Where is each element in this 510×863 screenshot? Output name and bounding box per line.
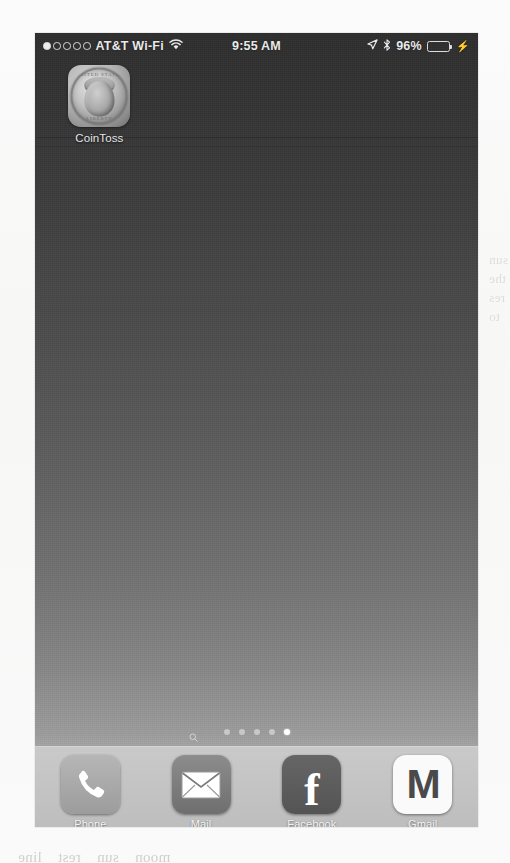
gmail-m-icon[interactable]: M <box>393 755 452 814</box>
signal-strength-dots <box>43 42 91 50</box>
dock-label-facebook: Facebook <box>287 818 336 827</box>
page-dot-2[interactable] <box>239 729 245 735</box>
page-indicator <box>35 725 478 739</box>
wifi-icon <box>169 39 183 53</box>
phone-handset-icon[interactable] <box>61 755 120 814</box>
status-bar-left: AT&T Wi-Fi <box>43 39 367 53</box>
facebook-f-glyph: f <box>304 767 319 813</box>
battery-icon <box>427 41 450 52</box>
phone-screenshot: AT&T Wi-Fi 9:55 AM 96% <box>35 33 478 827</box>
dock-label-gmail: Gmail <box>408 818 437 827</box>
dock-item-facebook[interactable]: f Facebook <box>282 755 341 827</box>
envelope-icon[interactable] <box>172 755 231 814</box>
page-dot-3[interactable] <box>254 729 260 735</box>
bluetooth-icon <box>383 39 391 54</box>
app-cointoss[interactable]: UNITED STATES LIBERTY CoinToss <box>47 65 152 144</box>
wallpaper <box>35 33 478 827</box>
lightning-bolt-icon: ⚡ <box>456 41 470 52</box>
page-dot-1[interactable] <box>224 729 230 735</box>
dock: Phone Mail f Facebook M Gmail <box>35 746 478 827</box>
search-icon[interactable] <box>189 728 198 737</box>
coin-portrait <box>84 80 114 116</box>
dock-item-mail[interactable]: Mail <box>172 755 231 827</box>
coin-text-top: UNITED STATES <box>71 72 128 77</box>
quarter-coin-icon[interactable]: UNITED STATES LIBERTY <box>68 65 130 127</box>
status-bar: AT&T Wi-Fi 9:55 AM 96% <box>35 33 478 59</box>
status-bar-right: 96% ⚡ <box>367 39 470 54</box>
coin-disc: UNITED STATES LIBERTY <box>71 68 128 125</box>
page-dot-5[interactable] <box>284 729 290 735</box>
location-arrow-icon <box>367 39 378 53</box>
coin-text-bottom: LIBERTY <box>71 116 128 121</box>
gmail-m-glyph: M <box>407 764 439 805</box>
battery-percent-label: 96% <box>396 39 422 53</box>
dock-item-phone[interactable]: Phone <box>61 755 120 827</box>
dock-label-phone: Phone <box>74 818 106 827</box>
app-label-cointoss: CoinToss <box>75 132 123 144</box>
scan-line <box>35 146 478 147</box>
page-dot-4[interactable] <box>269 729 275 735</box>
dock-item-gmail[interactable]: M Gmail <box>393 755 452 827</box>
carrier-label: AT&T Wi-Fi <box>96 39 164 53</box>
app-icon-grid: UNITED STATES LIBERTY CoinToss <box>35 61 478 144</box>
facebook-f-icon[interactable]: f <box>282 755 341 814</box>
dock-label-mail: Mail <box>191 818 212 827</box>
